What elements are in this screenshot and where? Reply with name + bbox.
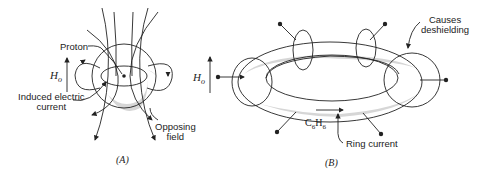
caption-a: (A)	[116, 155, 129, 165]
molecule-sub-2: 6	[322, 123, 326, 131]
field-subscript: o	[201, 77, 205, 86]
field-label-a: Ho	[50, 70, 62, 85]
field-symbol: H	[50, 69, 58, 81]
proton-label: Proton	[60, 42, 88, 52]
molecule-label: C6H6	[305, 118, 326, 132]
caption-b: (B)	[325, 158, 338, 168]
field-subscript: o	[58, 75, 62, 84]
ring-current-label: Ring current	[346, 139, 398, 149]
induced-line-2: current	[18, 102, 85, 112]
diagram-canvas	[0, 0, 483, 175]
field-symbol: H	[193, 71, 201, 83]
causes-deshielding-label: Causes deshielding	[421, 15, 469, 35]
induced-current-label: Induced electric current	[18, 92, 85, 112]
opposing-line-2: field	[155, 132, 196, 142]
panel-b-dots	[216, 22, 448, 136]
panel-b-diagram	[210, 22, 446, 143]
opposing-field-label: Opposing field	[155, 122, 196, 142]
molecule-c: C	[305, 117, 312, 128]
field-label-b: Ho	[193, 72, 205, 87]
causes-line-2: deshielding	[421, 25, 469, 35]
